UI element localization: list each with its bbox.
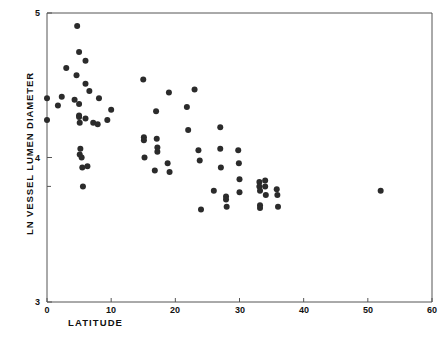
data-point	[154, 136, 160, 142]
data-point	[76, 101, 82, 107]
data-point	[76, 49, 82, 55]
data-point	[235, 147, 241, 153]
x-tick-label-0: 0	[39, 305, 55, 315]
data-point	[141, 137, 147, 143]
data-point	[44, 117, 50, 123]
data-point	[79, 155, 85, 161]
x-tick-label-30: 30	[232, 305, 248, 315]
data-point	[83, 115, 89, 121]
data-point	[198, 207, 204, 213]
data-point-group	[44, 23, 384, 213]
plot-canvas	[0, 0, 445, 344]
data-point	[76, 114, 82, 120]
data-point	[275, 204, 281, 210]
y-tick-label-5: 5	[26, 8, 40, 18]
data-point	[77, 146, 83, 152]
data-point	[108, 107, 114, 113]
data-point	[217, 146, 223, 152]
data-point	[72, 97, 78, 103]
data-point	[152, 168, 158, 174]
data-point	[224, 204, 230, 210]
x-tick-label-20: 20	[167, 305, 183, 315]
data-point	[142, 155, 148, 161]
data-point	[96, 95, 102, 101]
data-point	[192, 87, 198, 93]
data-point	[154, 149, 160, 155]
x-axis-title: LATITUDE	[68, 317, 123, 328]
axis-lines	[47, 13, 432, 302]
data-point	[217, 124, 223, 130]
data-point	[104, 117, 110, 123]
x-tick-label-10: 10	[103, 305, 119, 315]
data-point	[262, 183, 268, 189]
data-point	[153, 108, 159, 114]
data-point	[237, 176, 243, 182]
data-point	[74, 23, 80, 29]
data-point	[165, 160, 171, 166]
data-point	[63, 65, 69, 71]
x-tick-label-50: 50	[360, 305, 376, 315]
data-point	[274, 192, 280, 198]
x-tick-label-40: 40	[296, 305, 312, 315]
data-point	[218, 165, 224, 171]
data-point	[55, 102, 61, 108]
data-point	[167, 169, 173, 175]
data-point	[84, 163, 90, 169]
data-point	[211, 188, 217, 194]
y-tick-label-4: 4	[26, 153, 40, 163]
data-point	[257, 205, 263, 211]
data-point	[80, 183, 86, 189]
data-point	[140, 76, 146, 82]
data-point	[95, 121, 101, 127]
y-tick-label-3: 3	[26, 297, 40, 307]
data-point	[83, 81, 89, 87]
x-tick-label-60: 60	[424, 305, 440, 315]
data-point	[195, 147, 201, 153]
data-point	[263, 192, 269, 198]
data-point	[184, 104, 190, 110]
data-point	[223, 196, 229, 202]
data-point	[83, 58, 89, 64]
tick-marks	[47, 13, 432, 302]
data-point	[197, 157, 203, 163]
data-point	[79, 165, 85, 171]
data-point	[44, 95, 50, 101]
data-point	[185, 127, 191, 133]
data-point	[274, 186, 280, 192]
data-point	[86, 88, 92, 94]
data-point	[257, 188, 263, 194]
data-point	[59, 94, 65, 100]
data-point	[378, 188, 384, 194]
data-point	[262, 178, 268, 184]
data-point	[74, 72, 80, 78]
scatter-plot-figure: LN VESSEL LUMEN DIAMETER LATITUDE 5 4 3 …	[0, 0, 445, 344]
data-point	[166, 89, 172, 95]
data-point	[77, 120, 83, 126]
data-point	[237, 189, 243, 195]
data-point	[236, 160, 242, 166]
